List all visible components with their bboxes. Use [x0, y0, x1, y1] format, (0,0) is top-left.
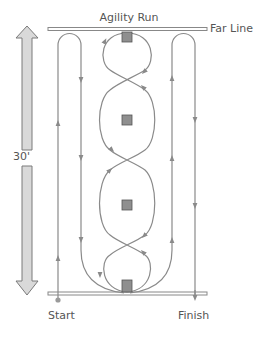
start-dot-icon	[55, 297, 60, 302]
far-line	[48, 28, 207, 31]
cone-3	[122, 200, 132, 210]
cone-4	[122, 280, 132, 292]
agility-run-diagram	[0, 0, 258, 339]
distance-label: 30'	[11, 151, 32, 162]
weave-path	[100, 33, 155, 292]
finish-label: Finish	[178, 310, 209, 321]
far-line-label: Far Line	[210, 23, 253, 34]
cone-1	[122, 32, 132, 42]
start-label: Start	[48, 310, 75, 321]
cone-2	[122, 115, 132, 125]
